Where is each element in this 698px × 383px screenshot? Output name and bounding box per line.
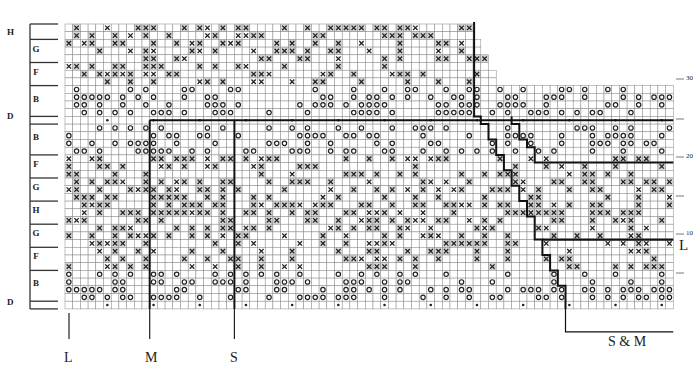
band-label-g1: G	[14, 44, 58, 54]
band-label-d-mid: D	[7, 111, 14, 121]
band-label-g3: G	[14, 228, 58, 238]
tick-30: 30	[686, 74, 693, 82]
tick-10: 10	[686, 229, 693, 237]
band-label-f1: F	[14, 67, 58, 77]
size-label-l: L	[64, 350, 73, 366]
band-label-b2: B	[14, 132, 58, 142]
band-label-f3: F	[14, 251, 58, 261]
band-label-b1: B	[14, 94, 58, 104]
size-label-l-right: L	[679, 237, 688, 254]
band-label-d-bot: D	[7, 297, 14, 307]
band-label-h2: H	[14, 205, 58, 215]
band-label-g2: G	[14, 182, 58, 192]
band-label-h-top: H	[7, 27, 14, 37]
tick-20: 20	[686, 152, 693, 160]
band-label-b3: B	[14, 278, 58, 288]
size-label-m: M	[145, 350, 157, 366]
band-label-f2: F	[14, 159, 58, 169]
size-label-s: S	[230, 350, 238, 366]
knitting-chart	[0, 0, 698, 383]
size-label-s-and-m: S & M	[608, 334, 646, 350]
